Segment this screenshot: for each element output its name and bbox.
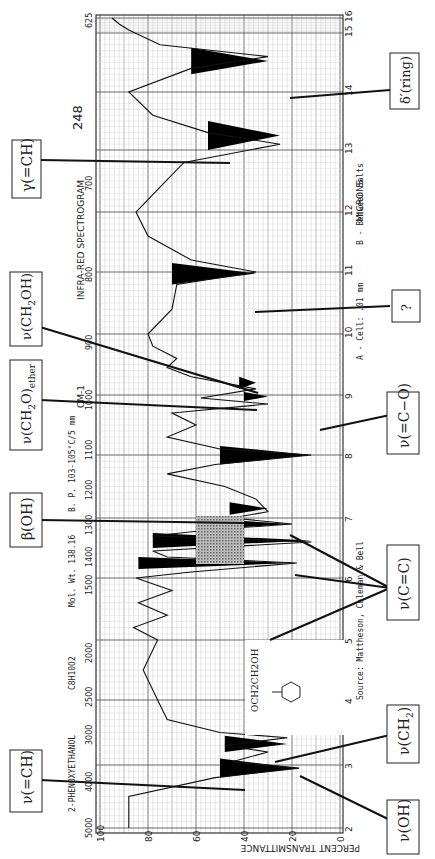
annotation-eq-co: ν(=C−O): [387, 383, 419, 454]
svg-text:3000: 3000: [85, 725, 94, 745]
svg-text:10: 10: [344, 326, 354, 338]
micron-axis: 2345678910111213141516: [344, 10, 354, 832]
svg-text:ν(C=C): ν(C=C): [396, 557, 412, 610]
svg-text:1000: 1000: [85, 390, 94, 410]
annotation-ring: δ′(ring): [390, 53, 419, 109]
annotation-unknown: ?: [392, 290, 420, 322]
svg-text:1300: 1300: [85, 515, 94, 535]
svg-text:2: 2: [344, 826, 354, 832]
annotation-ch2oh: ν(CH2OH): [10, 272, 42, 346]
svg-text:15: 15: [344, 26, 354, 37]
svg-text:8: 8: [344, 453, 354, 459]
ir-spectrogram: OCH2CH2OH 500040003000250020001500140013…: [0, 0, 435, 859]
svg-text:3: 3: [344, 763, 354, 769]
svg-text:60: 60: [192, 830, 202, 842]
structure-formula: OCH2CH2OH: [250, 648, 260, 712]
mol-weight: Mol. Wt. 138.16: [68, 535, 77, 607]
svg-text:625: 625: [85, 13, 94, 28]
annotation-eq-ch: ν(=CH): [10, 750, 42, 812]
source: Source: Mattheson, Coleman & Bell: [356, 541, 365, 700]
annotation-beta-oh: β(OH): [10, 493, 42, 547]
svg-text:13: 13: [344, 143, 354, 154]
svg-text:5000: 5000: [85, 818, 94, 838]
chart-title: INFRA-RED SPECTROGRAM: [76, 180, 86, 300]
wavenumber-axis: 5000400030002500200015001400130012001100…: [85, 13, 94, 838]
svg-text:1500: 1500: [85, 575, 94, 595]
svg-text:γ(=CH): γ(=CH): [19, 138, 35, 192]
svg-text:4: 4: [344, 698, 354, 704]
annotation-gamma-ch: γ(=CH): [12, 138, 41, 198]
svg-text:16: 16: [344, 10, 354, 22]
svg-text:11: 11: [344, 265, 354, 276]
annotation-oh: ν(OH): [387, 799, 419, 854]
svg-text:δ′(ring): δ′(ring): [398, 56, 413, 104]
svg-text:ν(=CH): ν(=CH): [19, 750, 35, 804]
svg-text:800: 800: [85, 267, 94, 282]
compound-name: 2-PHENOXYETHANOL: [68, 735, 77, 812]
cell-b: B - Between Salts: [356, 163, 365, 245]
annotation-cc: ν(C=C): [387, 545, 419, 620]
svg-text:40: 40: [240, 830, 250, 842]
svg-text:700: 700: [85, 176, 94, 191]
svg-text:100: 100: [96, 825, 106, 842]
svg-text:5: 5: [344, 638, 354, 644]
svg-text:ν(OH): ν(OH): [396, 799, 412, 842]
annotation-ch2: ν(CH2): [387, 705, 419, 763]
svg-text:1100: 1100: [85, 440, 94, 460]
boiling-point: B. P. 103-105°C/5 mm: [68, 415, 77, 512]
annotation-ch2o-ether: ν(CH2O)ether: [10, 360, 42, 450]
svg-text:2000: 2000: [85, 643, 94, 663]
svg-text:20: 20: [288, 830, 298, 842]
cell-a: A - Cell: .01 mm: [356, 283, 365, 360]
svg-text:2500: 2500: [85, 687, 94, 707]
svg-text:β(OH): β(OH): [19, 497, 35, 540]
page-number: 248: [70, 105, 85, 130]
formula: C8H10O2: [68, 656, 77, 690]
svg-text:1400: 1400: [85, 547, 94, 567]
svg-text:1200: 1200: [85, 480, 94, 500]
structure-box: OCH2CH2OH: [245, 640, 345, 735]
y-axis-title: PERCENT TRANSMITTANCE: [240, 843, 360, 853]
cm1-label: CM-1: [76, 385, 86, 408]
svg-text:?: ?: [399, 304, 414, 311]
svg-text:9: 9: [344, 393, 354, 399]
svg-text:7: 7: [344, 516, 354, 522]
svg-text:0: 0: [336, 836, 346, 842]
svg-text:ν(=C−O): ν(=C−O): [396, 383, 412, 448]
svg-text:80: 80: [144, 830, 154, 842]
svg-text:12: 12: [344, 205, 354, 216]
